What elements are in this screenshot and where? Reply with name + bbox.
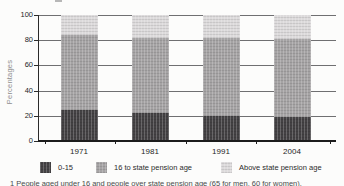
y-tick-label-20: 20: [8, 112, 33, 120]
bar-2004: [274, 15, 311, 141]
y-tick-mark-100: [34, 15, 38, 16]
legend-item-0-15: 0-15: [40, 161, 73, 173]
x-tick-mark-4: [330, 141, 331, 144]
population-by-age-chart: Percentages 0-1516 to state pension ageA…: [0, 0, 344, 186]
bar-segment-1971-0-15: [61, 110, 98, 142]
x-tick-mark-2: [186, 141, 187, 144]
y-tick-label-40: 40: [8, 87, 33, 95]
x-tick-mark-0: [45, 141, 46, 144]
legend-label: Above state pension age: [239, 163, 322, 172]
y-tick-mark-40: [34, 91, 38, 92]
bar-segment-2004-16-to-state-pension-age: [274, 39, 311, 117]
y-tick-mark-80: [34, 40, 38, 41]
y-tick-label-0: 0: [8, 137, 33, 145]
bar-1991: [203, 15, 240, 141]
y-tick-label-60: 60: [8, 61, 33, 69]
clipped-title-fragment: [55, 0, 62, 2]
bar-segment-1971-above-state-pension-age: [61, 15, 98, 35]
bar-segment-2004-above-state-pension-age: [274, 15, 311, 39]
bar-1981: [132, 15, 169, 141]
plot-area: [38, 15, 336, 141]
bar-segment-1991-16-to-state-pension-age: [203, 38, 240, 116]
y-tick-mark-20: [34, 116, 38, 117]
legend-swatch-icon: [96, 162, 107, 173]
legend-label: 0-15: [58, 163, 73, 172]
x-tick-mark-1: [115, 141, 116, 144]
legend-swatch-icon: [221, 162, 232, 173]
y-tick-mark-0: [34, 141, 38, 142]
bar-segment-1981-0-15: [132, 113, 169, 141]
y-tick-mark-60: [34, 65, 38, 66]
bar-segment-1981-above-state-pension-age: [132, 15, 169, 38]
bar-segment-1991-above-state-pension-age: [203, 15, 240, 38]
legend-swatch-icon: [40, 162, 51, 173]
x-tick-mark-3: [256, 141, 257, 144]
bar-segment-2004-0-15: [274, 117, 311, 141]
x-category-label-1971: 1971: [54, 147, 104, 156]
y-tick-label-80: 80: [8, 36, 33, 44]
legend-item-16-to-state-pension-age: 16 to state pension age: [96, 161, 192, 173]
y-axis-line: [38, 15, 39, 142]
y-tick-label-100: 100: [8, 11, 33, 19]
x-category-label-2004: 2004: [267, 147, 317, 156]
x-axis-line: [38, 140, 336, 142]
legend-label: 16 to state pension age: [114, 163, 192, 172]
x-category-label-1981: 1981: [125, 147, 175, 156]
legend-item-above-state-pension-age: Above state pension age: [221, 161, 322, 173]
x-category-label-1991: 1991: [196, 147, 246, 156]
bar-segment-1971-16-to-state-pension-age: [61, 35, 98, 109]
legend: 0-1516 to state pension ageAbove state p…: [0, 161, 344, 174]
footnote-clipped: 1 People aged under 16 and people over s…: [10, 179, 340, 186]
bar-segment-1981-16-to-state-pension-age: [132, 38, 169, 114]
bar-1971: [61, 15, 98, 141]
bar-segment-1991-0-15: [203, 116, 240, 141]
